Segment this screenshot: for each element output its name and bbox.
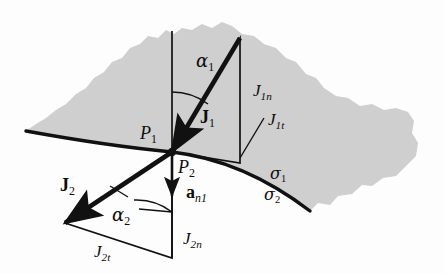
conducting-region-shape: [26, 22, 418, 211]
label-j1t: J1t: [268, 111, 284, 128]
figure-canvas: α1 α2 J1 J2 J1n J1t J2n J2t P1 P2 an1 σ1…: [0, 0, 444, 274]
label-j2t: J2t: [94, 243, 110, 260]
label-alpha2: α2: [112, 206, 130, 224]
diagram-svg: [0, 0, 444, 274]
label-sigma2: σ2: [264, 187, 280, 203]
label-j2n: J2n: [183, 230, 202, 247]
leader-line-alpha2-right: [139, 209, 172, 212]
label-point-p2: P2: [178, 158, 195, 176]
label-vector-j1: J1: [200, 108, 215, 126]
label-j1n: J1n: [253, 82, 272, 99]
label-point-p1: P1: [140, 124, 157, 142]
label-an1: an1: [186, 183, 207, 201]
interface-point-marker: [168, 148, 176, 156]
label-alpha1: α1: [196, 52, 214, 70]
label-vector-j2: J2: [60, 176, 75, 194]
label-sigma1: σ1: [270, 166, 286, 182]
